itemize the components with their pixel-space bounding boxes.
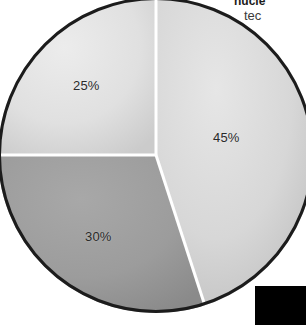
caption-line-1: nucle [234,0,306,8]
caption-text-block: nucle tec [220,0,306,28]
pie-label-45: 45% [213,130,240,145]
pie-chart [0,0,306,313]
black-corner-block [255,286,306,325]
screenshot-root: 45% 25% 30% nucle tec [0,0,306,325]
caption-line-2: tec [244,8,306,24]
pie-label-30: 30% [85,229,112,244]
pie-label-25: 25% [73,78,100,93]
pie-chart-svg [0,0,306,313]
